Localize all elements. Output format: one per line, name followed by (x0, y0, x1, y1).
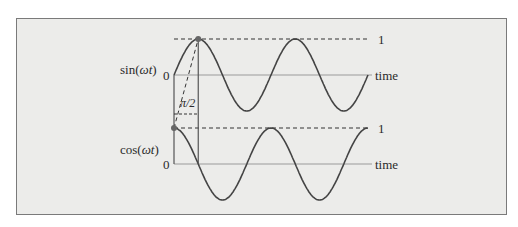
cos-one-label: 1 (378, 122, 385, 135)
phase-shift-label: π/2 (180, 97, 195, 109)
sine-cosine-plot (17, 19, 508, 216)
sin-zero-label: 0 (163, 69, 170, 82)
sin-one-label: 1 (378, 33, 385, 46)
cos-time-label: time (375, 158, 398, 171)
cos-axis-label: cos(ωt) (120, 143, 159, 156)
cos-zero-label: 0 (163, 158, 170, 171)
cos-start-dot (171, 125, 177, 131)
sin-peak-dot (195, 36, 201, 42)
phase-connector-line (174, 39, 198, 128)
sin-axis-label: sin(ωt) (120, 63, 157, 76)
phase-diagram-figure: sin(ωt) 0 1 time π/2 cos(ωt) 0 1 time (16, 18, 507, 215)
sin-time-label: time (375, 69, 398, 82)
